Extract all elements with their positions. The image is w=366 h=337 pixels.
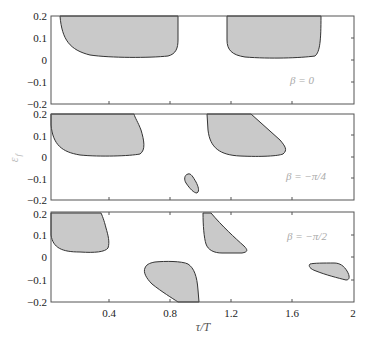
region-3: [185, 174, 199, 193]
region-2: [227, 16, 321, 58]
region-3: [144, 261, 199, 302]
x-ticks: 0.4 0.8 1.2 1.6 2: [102, 307, 356, 319]
svg-text:εf: εf: [7, 152, 23, 162]
beta-label: β = −π/2: [286, 230, 327, 242]
region-4: [309, 263, 349, 280]
svg-text:−0.1: −0.1: [27, 173, 47, 185]
y-ticks: 0.2 0.1 0 −0.1 −0.2: [27, 208, 47, 308]
svg-text:0.1: 0.1: [33, 32, 47, 44]
svg-text:0.2: 0.2: [33, 10, 47, 22]
svg-text:0: 0: [42, 151, 48, 163]
svg-text:0.2: 0.2: [33, 208, 47, 220]
beta-label: β = 0: [289, 74, 314, 86]
svg-text:−0.2: −0.2: [27, 194, 47, 206]
svg-text:−0.1: −0.1: [27, 76, 47, 88]
svg-text:1.6: 1.6: [285, 307, 299, 319]
svg-text:0.2: 0.2: [33, 108, 47, 120]
y-axis-label: εf: [7, 152, 23, 162]
svg-text:−0.1: −0.1: [27, 274, 47, 286]
panel-beta-minus-pi-4: 0.2 0.1 0 −0.1 −0.2 β = −π/4: [27, 108, 354, 206]
figure: 0.2 0.1 0 −0.1 −0.2 β = 0 0.2 0.1 0 −0.1…: [0, 0, 366, 337]
svg-text:0: 0: [42, 251, 48, 263]
beta-label: β = −π/4: [285, 170, 326, 182]
y-ticks: 0.2 0.1 0 −0.1 −0.2: [27, 108, 47, 206]
region-2: [207, 114, 286, 156]
svg-text:0.8: 0.8: [163, 307, 177, 319]
region-1: [51, 114, 144, 156]
region-1: [51, 213, 109, 252]
svg-text:1.2: 1.2: [224, 307, 238, 319]
panel-beta-minus-pi-2: 0.2 0.1 0 −0.1 −0.2 β = −π/2: [27, 208, 354, 308]
region-1: [60, 16, 178, 57]
y-ticks: 0.2 0.1 0 −0.1 −0.2: [27, 10, 47, 110]
svg-text:0.1: 0.1: [33, 229, 47, 241]
x-axis-label: τ/T: [196, 320, 212, 334]
svg-text:0: 0: [42, 54, 48, 66]
svg-text:0.4: 0.4: [102, 307, 116, 319]
svg-text:0.1: 0.1: [33, 130, 47, 142]
svg-text:−0.2: −0.2: [27, 296, 47, 308]
svg-text:2: 2: [350, 307, 356, 319]
region-2: [203, 213, 247, 253]
panel-beta-0: 0.2 0.1 0 −0.1 −0.2 β = 0: [27, 10, 354, 110]
